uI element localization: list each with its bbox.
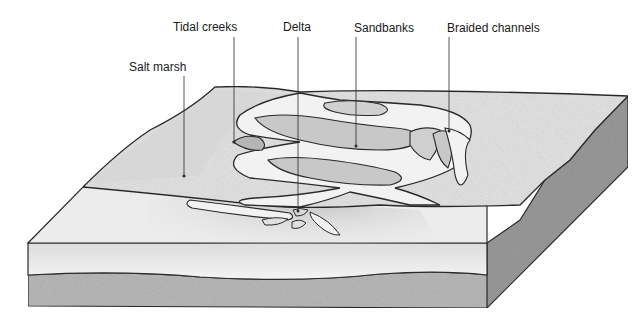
label-sandbanks: Sandbanks — [354, 21, 414, 35]
label-salt-marsh: Salt marsh — [129, 60, 186, 74]
label-braided-channels: Braided channels — [447, 21, 540, 35]
estuary-block-diagram — [0, 0, 638, 325]
label-delta: Delta — [283, 20, 311, 34]
label-tidal-creeks: Tidal creeks — [173, 20, 237, 34]
